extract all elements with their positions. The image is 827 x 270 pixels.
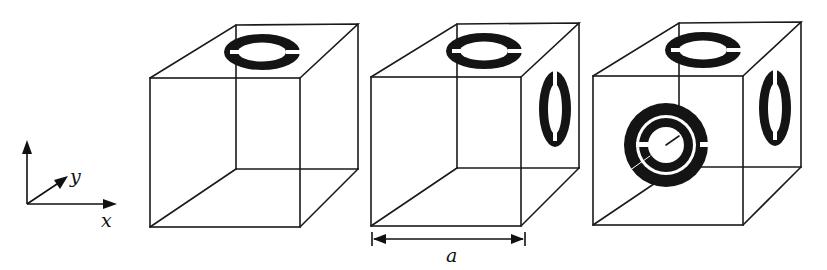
dimension-label: a: [446, 244, 457, 266]
y-axis-arrowhead-icon: [54, 176, 68, 189]
cube-1: [150, 24, 358, 227]
dimension-arrowhead-right-icon: [511, 234, 524, 244]
cube-1-top-split-ring-icon: [224, 34, 302, 70]
x-axis-label: x: [101, 209, 112, 231]
cube-3: [593, 22, 801, 225]
cube-3-top-split-ring-icon: [665, 32, 743, 68]
x-axis-arrowhead-icon: [103, 199, 117, 209]
cube-3-front-double-split-ring-icon: [624, 103, 716, 187]
z-axis-arrowhead-icon: [22, 140, 32, 154]
split-ring-cube-figure: y x a: [0, 0, 827, 270]
cube-3-side-split-ring-icon: [759, 68, 791, 146]
cube-2: a: [371, 23, 579, 266]
y-axis-line: [27, 182, 60, 204]
axes: y x: [22, 140, 117, 231]
y-axis-label: y: [69, 165, 81, 187]
cube-2-top-split-ring-icon: [446, 33, 524, 69]
cube-2-side-split-ring-icon: [539, 69, 571, 147]
dimension-arrowhead-left-icon: [373, 234, 386, 244]
